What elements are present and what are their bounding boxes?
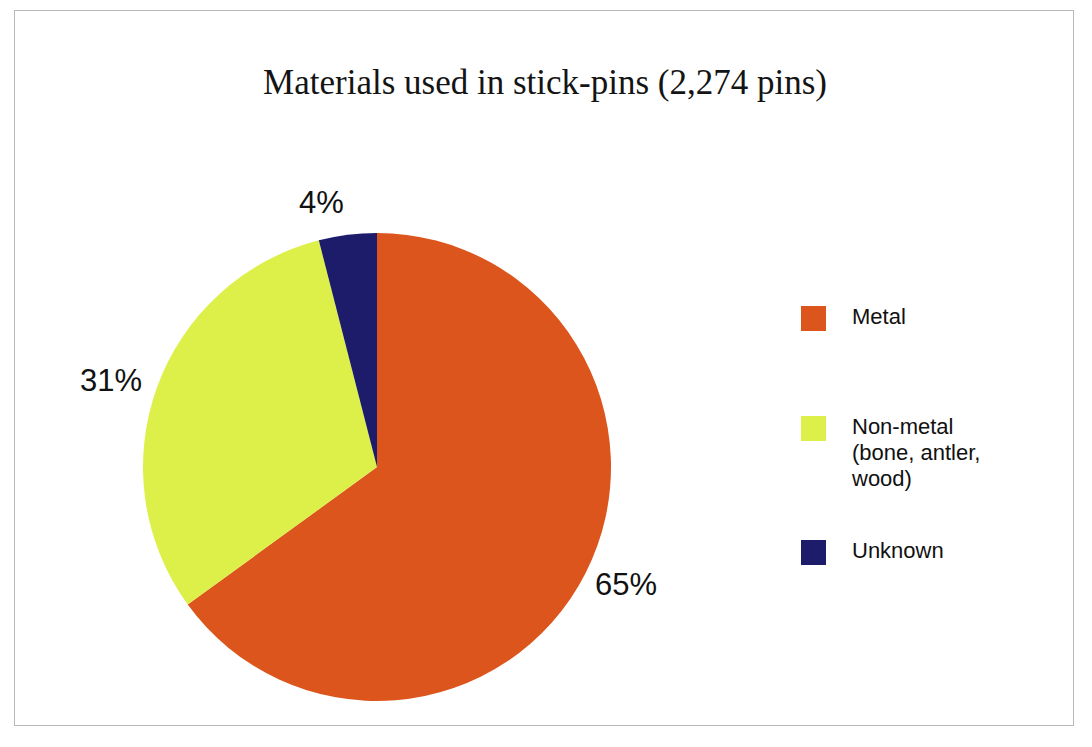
chart-title: Materials used in stick-pins (2,274 pins…: [15, 63, 1075, 103]
legend-swatch-non-metal-icon: [801, 416, 826, 441]
legend-item-unknown[interactable]: Unknown: [801, 538, 944, 565]
legend-label-unknown: Unknown: [852, 538, 944, 564]
legend-item-non-metal[interactable]: Non-metal (bone, antler, wood): [801, 414, 980, 492]
legend-label-non-metal: Non-metal (bone, antler, wood): [852, 414, 980, 492]
pie-svg: [129, 219, 625, 715]
legend-swatch-unknown-icon: [801, 540, 826, 565]
legend-label-metal: Metal: [852, 304, 906, 330]
pie-label-metal: 65%: [595, 567, 657, 603]
legend-item-metal[interactable]: Metal: [801, 304, 906, 331]
pie-label-non-metal: 31%: [80, 363, 142, 399]
pie-chart: [129, 219, 625, 715]
chart-frame: Materials used in stick-pins (2,274 pins…: [14, 10, 1074, 726]
pie-label-unknown: 4%: [299, 185, 344, 221]
legend-swatch-metal-icon: [801, 306, 826, 331]
